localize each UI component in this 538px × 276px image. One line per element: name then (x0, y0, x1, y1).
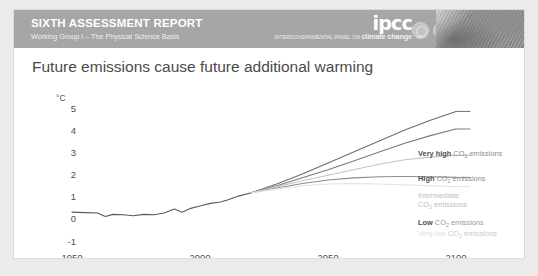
label-intermediate-rest: CO2 emissions (418, 200, 467, 212)
ipcc-tagline-bold: climate change (361, 32, 412, 41)
header-title-block: SIXTH ASSESSMENT REPORT Working Group I … (31, 17, 203, 42)
ipcc-logo: ipcc INTERGOVERNMENTAL PANEL ON climate … (274, 14, 412, 41)
ipcc-tagline: INTERGOVERNMENTAL PANEL ON climate chang… (274, 33, 412, 41)
slide-header-band: SIXTH ASSESSMENT REPORT Working Group I … (14, 10, 524, 48)
label-high-emissions: High CO2 emissions (418, 174, 485, 186)
screenshot-root: SIXTH ASSESSMENT REPORT Working Group I … (0, 0, 538, 276)
label-very-low-rest: CO2 emissions (448, 229, 497, 238)
wmo-emblem-caption: WMO (413, 35, 428, 39)
ipcc-tagline-prefix: INTERGOVERNMENTAL PANEL ON (274, 34, 361, 40)
label-very-high-emissions: Very high CO2 emissions (418, 149, 502, 161)
wmo-emblem-icon: WMO (412, 22, 429, 39)
chart-plot-area: °C 5 4 3 2 1 0 -1 1950 2000 2050 2100 Ve… (14, 48, 525, 259)
label-low-bold: Low (418, 218, 433, 227)
label-low-rest: CO2 emissions (435, 218, 484, 227)
label-high-rest: CO2 emissions (436, 174, 485, 183)
landscape-photo-strip (436, 10, 524, 48)
report-subtitle: Working Group I – The Physical Science B… (31, 32, 203, 42)
label-high-bold: High (418, 174, 434, 183)
label-very-high-rest: CO2 emissions (453, 149, 502, 158)
label-very-low-bold: Very low (418, 229, 446, 238)
report-title: SIXTH ASSESSMENT REPORT (31, 17, 203, 30)
label-very-high-bold: Very high (418, 149, 451, 158)
presentation-slide: SIXTH ASSESSMENT REPORT Working Group I … (13, 9, 525, 259)
ipcc-wordmark: ipcc (274, 14, 412, 33)
label-very-low-emissions: Very low CO2 emissions (418, 229, 497, 241)
label-intermediate-bold: Intermediate (418, 191, 467, 200)
series-historical (72, 193, 251, 217)
label-intermediate-emissions: Intermediate CO2 emissions (418, 191, 467, 212)
